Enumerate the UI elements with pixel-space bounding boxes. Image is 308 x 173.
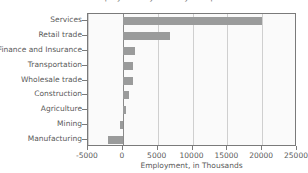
x-tick-mark bbox=[122, 146, 123, 150]
bar-manufacturing bbox=[108, 136, 123, 144]
y-axis-label-manufacturing: Manufacturing bbox=[28, 135, 82, 143]
y-axis-label-wholesale-trade: Wholesale trade bbox=[21, 76, 82, 84]
y-tick-mark bbox=[82, 109, 87, 110]
x-tick-mark bbox=[192, 146, 193, 150]
x-tick-mark bbox=[87, 146, 88, 150]
y-tick-mark bbox=[82, 94, 87, 95]
x-axis-tick-label: 5000 bbox=[147, 151, 166, 160]
chart-title: Employment by Industry Group bbox=[0, 0, 308, 2]
bar-agriculture bbox=[123, 106, 126, 114]
y-tick-mark bbox=[82, 139, 87, 140]
x-axis-tick-label: 20000 bbox=[249, 151, 273, 160]
y-tick-mark bbox=[82, 50, 87, 51]
gridline-15000 bbox=[227, 14, 228, 145]
x-axis-tick-label: 0 bbox=[119, 151, 124, 160]
x-tick-mark bbox=[261, 146, 262, 150]
x-axis-tick-label: -5000 bbox=[76, 151, 98, 160]
bar-finance-and-insurance bbox=[123, 47, 136, 55]
y-axis-label-retail-trade: Retail trade bbox=[38, 31, 82, 39]
y-axis-label-finance-and-insurance: Finance and Insurance bbox=[0, 46, 82, 54]
bar-transportation bbox=[123, 62, 133, 70]
bar-retail-trade bbox=[123, 32, 170, 40]
gridline-10000 bbox=[193, 14, 194, 145]
gridline--5000 bbox=[88, 14, 89, 145]
y-tick-mark bbox=[82, 65, 87, 66]
chart-figure: Employment by Industry Group ServicesRet… bbox=[0, 0, 308, 173]
y-tick-mark bbox=[82, 35, 87, 36]
y-tick-mark bbox=[82, 80, 87, 81]
bar-wholesale-trade bbox=[123, 77, 133, 85]
x-tick-mark bbox=[157, 146, 158, 150]
y-axis-label-agriculture: Agriculture bbox=[41, 105, 82, 113]
y-tick-mark bbox=[82, 20, 87, 21]
bar-construction bbox=[123, 91, 129, 99]
bar-services bbox=[123, 17, 262, 25]
y-axis-label-mining: Mining bbox=[57, 120, 82, 128]
bar-mining bbox=[120, 121, 123, 129]
x-axis-tick-label: 15000 bbox=[214, 151, 238, 160]
x-tick-mark bbox=[296, 146, 297, 150]
x-axis-tick-label: 25000 bbox=[284, 151, 308, 160]
y-axis-label-services: Services bbox=[50, 16, 82, 24]
y-tick-mark bbox=[82, 124, 87, 125]
y-axis-label-construction: Construction bbox=[34, 90, 82, 98]
x-axis-tick-label: 10000 bbox=[180, 151, 204, 160]
x-tick-mark bbox=[226, 146, 227, 150]
gridline-20000 bbox=[262, 14, 263, 145]
x-axis-title: Employment, in Thousands bbox=[87, 161, 296, 170]
plot-area bbox=[87, 13, 296, 146]
y-axis-label-transportation: Transportation bbox=[28, 61, 82, 69]
